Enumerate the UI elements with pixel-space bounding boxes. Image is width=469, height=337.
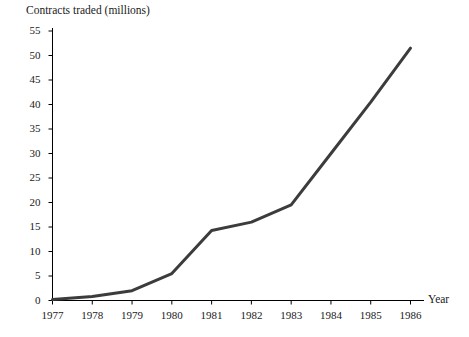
x-axis-tick-label: 1985 — [349, 310, 393, 321]
x-axis-tick-label: 1984 — [309, 310, 353, 321]
y-axis-tick-label: 50 — [15, 50, 41, 61]
x-axis-tick-label: 1986 — [389, 310, 433, 321]
x-axis-tick-label: 1978 — [70, 310, 114, 321]
y-axis-tick-label: 45 — [15, 74, 41, 85]
x-axis-tick-label: 1979 — [110, 310, 154, 321]
y-axis-ticks — [49, 31, 53, 301]
plot-area — [0, 0, 469, 337]
data-series-line — [53, 48, 411, 299]
x-axis-title: Year — [428, 293, 449, 305]
x-axis-tick-label: 1980 — [150, 310, 194, 321]
x-axis-tick-label: 1982 — [229, 310, 273, 321]
x-axis-ticks — [53, 301, 411, 305]
y-axis-tick-label: 55 — [15, 25, 41, 36]
x-axis-tick-label: 1981 — [190, 310, 234, 321]
y-axis-tick-label: 35 — [15, 123, 41, 134]
chart-figure: Contracts traded (millions) 051015202530… — [0, 0, 469, 337]
y-axis-tick-label: 10 — [15, 246, 41, 257]
x-axis-tick-label: 1977 — [31, 310, 75, 321]
y-axis-tick-label: 15 — [15, 221, 41, 232]
x-axis-tick-label: 1983 — [269, 310, 313, 321]
y-axis-tick-label: 5 — [15, 270, 41, 281]
y-axis-tick-label: 0 — [15, 295, 41, 306]
y-axis-tick-label: 25 — [15, 172, 41, 183]
y-axis-tick-label: 20 — [15, 197, 41, 208]
y-axis-tick-label: 40 — [15, 99, 41, 110]
y-axis-tick-label: 30 — [15, 148, 41, 159]
